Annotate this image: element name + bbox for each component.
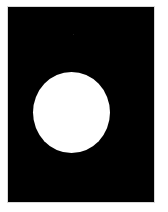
image-canvas: White disc on black rectangular panel (0, 0, 168, 212)
black-panel (8, 7, 154, 202)
white-disc (33, 72, 110, 153)
image-description: White disc on black rectangular panel (0, 0, 1, 1)
noise-speck (73, 34, 74, 35)
